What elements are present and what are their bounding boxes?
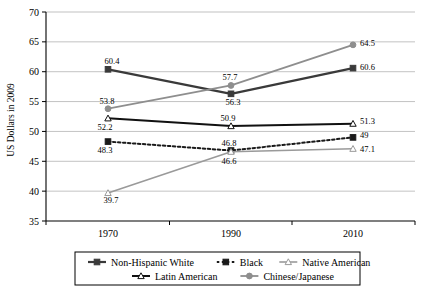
y-tick-label-40: 40 [29, 186, 39, 197]
x-tick-label-2010: 2010 [343, 228, 363, 239]
x-tick-label-1990: 1990 [221, 228, 241, 239]
y-axis-title: US Dollars in 2009 [6, 83, 16, 157]
marker-4-1 [228, 83, 234, 89]
legend-label-r1-1: Black [240, 257, 263, 268]
y-axis-tick-labels: 3540455055606570 [29, 7, 39, 227]
legend-marker-r1-1 [223, 259, 229, 265]
legend-label-r2-0: Latin American [155, 271, 217, 282]
x-axis-tick-labels: 197019902010 [98, 228, 363, 239]
point-label-1-1: 46.8 [222, 138, 237, 148]
y-tick-label-50: 50 [29, 126, 39, 137]
marker-0-2 [350, 65, 356, 71]
data-point-labels: 60.456.360.648.346.84939.746.647.152.250… [98, 38, 375, 205]
point-label-1-2: 49 [360, 130, 369, 140]
marker-4-0 [105, 106, 111, 112]
marker-0-0 [105, 67, 111, 73]
legend-item-black[interactable]: Black [217, 257, 263, 268]
point-label-4-1: 57.7 [223, 72, 238, 82]
point-label-3-2: 51.3 [360, 116, 375, 126]
point-label-1-0: 48.3 [98, 145, 113, 155]
point-label-3-1: 50.9 [221, 113, 236, 123]
legend-item-non-hispanic-white[interactable]: Non-Hispanic White [88, 257, 194, 268]
marker-4-2 [350, 42, 356, 48]
legend-marker-r2-1 [247, 273, 253, 279]
y-tick-label-35: 35 [29, 216, 39, 227]
marker-0-1 [228, 91, 234, 97]
point-label-2-0: 39.7 [104, 195, 119, 205]
point-label-4-0: 53.8 [100, 96, 115, 106]
marker-1-0 [105, 139, 111, 145]
point-label-2-1: 46.6 [222, 156, 237, 166]
y-tick-label-45: 45 [29, 156, 39, 167]
legend-marker-r1-0 [94, 259, 100, 265]
y-tick-label-60: 60 [29, 66, 39, 77]
legend-label-r1-0: Non-Hispanic White [111, 257, 194, 268]
x-tick-label-1970: 1970 [98, 228, 118, 239]
y-tick-label-70: 70 [29, 7, 39, 18]
legend-label-r2-1: Chinese/Japanese [263, 271, 334, 282]
legend-item-latin-american[interactable]: Latin American [132, 271, 217, 282]
legend-item-chinese-japanese[interactable]: Chinese/Japanese [240, 271, 334, 282]
y-tick-label-55: 55 [29, 96, 39, 107]
point-label-0-0: 60.4 [105, 56, 121, 66]
legend-label-r1-2: Native American [302, 257, 370, 268]
line-chart-figure: 3540455055606570 197019902010 US Dollars… [0, 0, 430, 290]
series-native-american [105, 146, 356, 196]
point-label-3-0: 52.2 [98, 122, 113, 132]
marker-1-2 [350, 135, 356, 141]
point-label-4-2: 64.5 [360, 38, 375, 48]
legend-item-native-american[interactable]: Native American [279, 257, 370, 268]
chart-legend: Non-Hispanic WhiteBlackNative AmericanLa… [75, 252, 370, 285]
chart-canvas: 3540455055606570 197019902010 US Dollars… [0, 0, 430, 290]
point-label-2-2: 47.1 [360, 144, 375, 154]
y-tick-label-65: 65 [29, 36, 39, 47]
point-label-0-1: 56.3 [226, 97, 241, 107]
point-label-0-2: 60.6 [360, 62, 375, 72]
